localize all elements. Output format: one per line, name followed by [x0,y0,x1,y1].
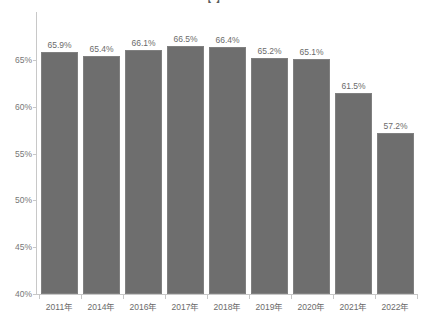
x-axis-tick-label: 2022年 [382,300,410,312]
x-axis-tick-mark [207,295,208,299]
x-axis-tick-mark [417,295,418,299]
bar[interactable] [167,46,204,294]
y-axis-tick-mark [33,200,37,201]
bar[interactable] [41,52,78,294]
x-axis-tick-label: 2016年 [130,300,158,312]
x-axis-tick-label: 2014年 [88,300,116,312]
bar-chart: 【 】 40%45%50%55%60%65% 65.9%65.4%66.1%66… [0,0,429,323]
bar[interactable] [125,50,162,294]
x-axis-tick-mark [375,295,376,299]
x-axis-line [36,294,418,295]
x-axis-tick-mark [165,295,166,299]
bar[interactable] [377,133,414,294]
x-axis-tick-label: 2020年 [298,300,326,312]
bar-value-label: 65.9% [47,40,71,50]
bar[interactable] [335,93,372,294]
y-axis-tick-label: 55% [0,149,32,159]
bar-value-label: 66.4% [215,35,239,45]
y-axis-tick-label: 65% [0,55,32,65]
x-axis-tick-mark [249,295,250,299]
y-axis-tick-mark [33,60,37,61]
y-axis-tick-mark [33,247,37,248]
x-axis-tick-mark [291,295,292,299]
y-axis-tick-mark [33,294,37,295]
bar[interactable] [251,58,288,294]
bar-value-label: 65.1% [299,47,323,57]
chart-title: 【 】 [0,0,429,5]
bar-value-label: 61.5% [341,81,365,91]
x-axis-tick-mark [81,295,82,299]
x-axis-tick-mark [39,295,40,299]
x-axis-tick-label: 2017年 [172,300,200,312]
x-axis-tick-label: 2018年 [214,300,242,312]
x-axis-tick-label: 2019年 [256,300,284,312]
y-axis-tick-label: 40% [0,289,32,299]
y-axis-tick-mark [33,107,37,108]
x-axis-tick-mark [333,295,334,299]
bar-value-label: 65.4% [89,44,113,54]
bar[interactable] [293,59,330,294]
y-axis-tick-label: 50% [0,195,32,205]
x-axis-tick-label: 2011年 [46,300,73,312]
y-axis-tick-label: 45% [0,242,32,252]
y-axis-tick-mark [33,154,37,155]
bar[interactable] [209,47,246,294]
bar-value-label: 66.5% [173,34,197,44]
x-axis-tick-mark [123,295,124,299]
bar-value-label: 66.1% [131,38,155,48]
bar-value-label: 57.2% [383,121,407,131]
y-axis-tick-label: 60% [0,102,32,112]
bar[interactable] [83,56,120,294]
bar-value-label: 65.2% [257,46,281,56]
x-axis-tick-label: 2021年 [340,300,368,312]
